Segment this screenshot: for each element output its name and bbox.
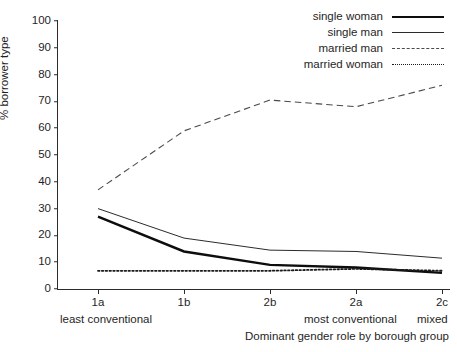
y-tick: 10 [38,256,58,268]
x-tick-label: 2a [350,296,363,308]
x-tick-label: 1b [178,296,191,308]
y-tick: 50 [38,149,58,161]
y-tick-label: 60 [38,122,51,134]
series-line-married-man [98,85,442,190]
x-tick-mark [270,289,271,294]
y-tick-mark [54,21,58,22]
y-tick-label: 50 [38,149,51,161]
x-tick-label: 2c [436,296,448,308]
x-tick-mark [356,289,357,294]
y-tick-label: 20 [38,230,51,242]
x-tick-mark [98,289,99,294]
x-sublabel-least-conventional: least conventional [60,313,152,325]
x-tick-label: 1a [92,296,105,308]
y-tick-label: 30 [38,203,51,215]
y-tick-mark [54,47,58,48]
x-sublabel-mixed: mixed [417,313,448,325]
y-tick-label: 10 [38,256,51,268]
y-tick-mark [54,208,58,209]
y-tick-label: 40 [38,176,51,188]
x-tick-label: 2b [264,296,277,308]
y-tick: 70 [38,96,58,108]
x-sublabel-most-conventional: most conventional [304,313,397,325]
chart-series-layer [58,21,450,289]
y-tick: 60 [38,122,58,134]
y-tick-mark [54,128,58,129]
y-tick-mark [54,181,58,182]
x-axis-line [57,289,450,290]
series-line-single-woman [98,217,442,273]
x-tick-mark [442,289,443,294]
y-tick-mark [54,101,58,102]
y-tick-mark [54,235,58,236]
y-tick: 100 [32,15,58,27]
y-tick: 30 [38,203,58,215]
plot-area: 1009080706050403020100 1a1b2b2a2cleast c… [58,21,450,289]
y-tick: 40 [38,176,58,188]
series-line-single-man [98,209,442,259]
y-tick-label: 70 [38,96,51,108]
y-tick: 80 [38,69,58,81]
y-tick-mark [54,262,58,263]
y-tick-label: 0 [45,283,51,295]
y-tick: 0 [45,283,58,295]
y-tick-mark [54,74,58,75]
y-tick: 20 [38,230,58,242]
y-tick-label: 90 [38,42,51,54]
y-tick-label: 80 [38,69,51,81]
x-tick-mark [184,289,185,294]
chart-figure: single woman single man married man marr… [0,0,457,352]
x-axis-title: Dominant gender role by borough group [0,330,449,342]
series-line-married-woman [98,269,442,271]
y-tick: 90 [38,42,58,54]
y-tick-mark [54,155,58,156]
y-tick-label: 100 [32,15,51,27]
y-tick-mark [54,289,58,290]
y-axis-title: % borrower type [0,0,10,120]
